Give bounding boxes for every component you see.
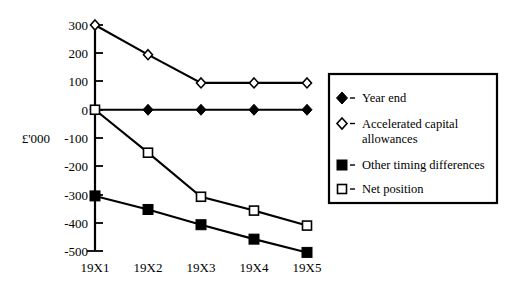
data-point-filled-diamond	[143, 104, 153, 115]
open-square-icon	[338, 185, 347, 194]
data-point-filled-diamond	[196, 104, 206, 115]
y-tick-label-neg100: -100	[64, 131, 88, 146]
series-year-end	[90, 104, 312, 115]
y-tick-label-0: 0	[82, 103, 89, 118]
data-point-open-square	[91, 105, 100, 114]
legend-label-accelerated-line1: Accelerated capital	[362, 117, 459, 131]
y-tick-label-neg200: -200	[64, 159, 88, 174]
data-point-filled-diamond	[302, 104, 312, 115]
data-point-open-square	[303, 221, 312, 230]
x-tick-label-19X3: 19X3	[187, 260, 216, 275]
y-tick-label-neg300: -300	[64, 188, 88, 203]
y-tick-label-300: 300	[69, 18, 89, 33]
y-tick-label-200: 200	[69, 46, 89, 61]
filled-square-icon	[337, 160, 347, 170]
y-axis-title: £'000	[22, 131, 50, 146]
data-point-filled-square	[196, 220, 206, 230]
data-point-open-diamond	[144, 50, 153, 60]
data-point-open-square	[144, 148, 153, 157]
data-point-open-diamond	[303, 78, 312, 88]
line-chart: 300 200 100 0 -100 -200 -300 -400 -500 £…	[0, 0, 512, 293]
x-tick-label-19X4: 19X4	[240, 260, 269, 275]
series-layer	[90, 20, 312, 257]
legend-label-net-position: Net position	[362, 182, 424, 196]
x-tick-label-19X2: 19X2	[134, 260, 163, 275]
series-line	[95, 110, 307, 226]
data-point-filled-square	[302, 247, 312, 257]
y-tick-label-100: 100	[69, 74, 89, 89]
y-tick-label-neg400: -400	[64, 216, 88, 231]
data-point-filled-diamond	[249, 104, 259, 115]
data-point-filled-square	[143, 204, 153, 214]
series-accelerated-capital-allowances	[91, 20, 312, 88]
legend-label-year-end: Year end	[362, 91, 407, 105]
data-point-filled-square	[249, 234, 259, 244]
data-point-open-square	[250, 206, 259, 215]
chart-container: 300 200 100 0 -100 -200 -300 -400 -500 £…	[0, 0, 512, 293]
data-point-open-diamond	[250, 78, 259, 88]
data-point-filled-square	[90, 191, 100, 201]
series-line	[95, 25, 307, 83]
x-tick-label-19X5: 19X5	[293, 260, 322, 275]
x-tick-label-19X1: 19X1	[81, 260, 110, 275]
data-point-open-diamond	[197, 78, 206, 88]
data-point-open-diamond	[91, 20, 100, 30]
series-net-position	[91, 105, 312, 230]
data-point-open-square	[197, 192, 206, 201]
legend-label-other-timing: Other timing differences	[362, 158, 485, 172]
y-tick-label-neg500: -500	[64, 244, 88, 259]
legend-label-accelerated-line2: allowances	[362, 132, 418, 146]
